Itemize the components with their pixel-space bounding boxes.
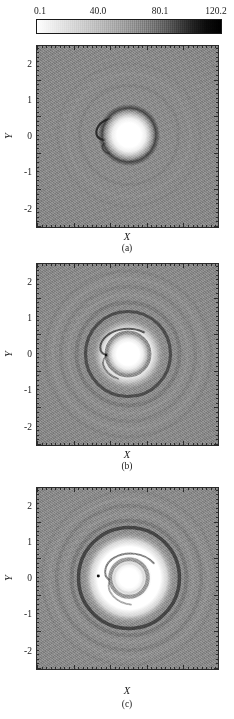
- panel-c-top-major-ticks: [37, 488, 218, 494]
- panel-c-y-tick-label: 1: [27, 537, 32, 547]
- panel-c-y-tick-label: 0: [27, 573, 32, 583]
- panel-a-y-tick-label: 1: [27, 95, 32, 105]
- panel-b-bottom-major-ticks: [37, 439, 218, 445]
- panel-c-bottom-major-ticks: [37, 663, 218, 669]
- colorbar-tick-label: 0.1: [34, 5, 46, 18]
- panel-a-y-tick-label: -1: [24, 167, 32, 177]
- panel-b-plot-area: [36, 263, 219, 446]
- colorbar-tick-labels: 0.1 40.0 80.1 120.2: [36, 5, 222, 18]
- colorbar-tick-label: 40.0: [90, 5, 107, 18]
- panel-b-y-tick-label: 0: [27, 349, 32, 359]
- panel-a-left-major-ticks: [37, 46, 43, 227]
- panel-c-caption: (c): [122, 699, 133, 709]
- panel-c: 2 1 0 -1 -2 -2 -1 0 1 2 Y X (c): [36, 487, 219, 719]
- colorbar-tick-label: 120.2: [205, 5, 226, 18]
- panel-c-y-tick-label: 2: [27, 501, 32, 511]
- panel-c-y-tick-label: -2: [24, 646, 32, 656]
- figure-container: 0.1 40.0 80.1 120.2: [0, 0, 234, 719]
- colorbar-texture: [37, 20, 221, 33]
- panel-a-plot-area: [36, 45, 219, 228]
- panel-b-top-major-ticks: [37, 264, 218, 270]
- panel-c-plot-area: [36, 487, 219, 670]
- panel-a-right-major-ticks: [212, 46, 218, 227]
- panel-b-y-tick-label: 1: [27, 313, 32, 323]
- panel-a-top-major-ticks: [37, 46, 218, 52]
- panel-c-y-tick-label: -1: [24, 609, 32, 619]
- panel-a-y-tick-label: -2: [24, 204, 32, 214]
- panel-a: 2 1 0 -1 -2 Y X (a): [36, 45, 219, 275]
- panel-a-image: [37, 46, 218, 227]
- panel-c-y-axis-title: Y: [3, 575, 14, 581]
- intensity-colorbar: [36, 19, 222, 34]
- panel-b-image: [37, 264, 218, 445]
- panel-b-right-major-ticks: [212, 264, 218, 445]
- panel-a-y-axis-title: Y: [3, 133, 14, 139]
- panel-b-y-tick-label: -1: [24, 385, 32, 395]
- colorbar-tick-label: 80.1: [152, 5, 169, 18]
- panel-b-left-major-ticks: [37, 264, 43, 445]
- panel-b-y-axis-title: Y: [3, 351, 14, 357]
- panel-b-caption: (b): [121, 461, 132, 471]
- panel-b-y-tick-label: 2: [27, 277, 32, 287]
- panel-b-x-axis-title: X: [124, 449, 130, 460]
- panel-a-y-tick-label: 0: [27, 131, 32, 141]
- panel-a-y-tick-label: 2: [27, 59, 32, 69]
- panel-a-bottom-major-ticks: [37, 221, 218, 227]
- panel-c-image: [37, 488, 218, 669]
- panel-c-left-major-ticks: [37, 488, 43, 669]
- panel-b-y-tick-label: -2: [24, 422, 32, 432]
- panel-a-caption: (a): [122, 243, 133, 253]
- panel-b: 2 1 0 -1 -2 Y X (b): [36, 263, 219, 493]
- panel-a-x-axis-title: X: [124, 231, 130, 242]
- panel-c-right-major-ticks: [212, 488, 218, 669]
- panel-c-x-axis-title: X: [124, 685, 130, 696]
